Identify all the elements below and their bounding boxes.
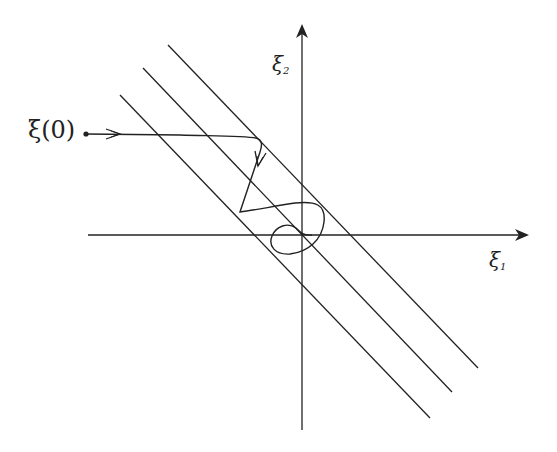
trajectory-curve <box>86 134 324 254</box>
initial-point-text: ξ(0) <box>28 116 75 144</box>
xi2-subscript: 2 <box>283 65 289 76</box>
xi2-axis-label: ξ2 <box>272 54 289 76</box>
xi1-subscript: 1 <box>500 261 506 272</box>
initial-point-label: ξ(0) <box>28 118 75 142</box>
xi1-symbol: ξ <box>489 248 500 272</box>
diagonal-line-lower <box>120 95 430 418</box>
diagonal-line-upper <box>168 45 478 368</box>
phase-plane-diagram: ξ(0) ξ2 ξ1 <box>0 0 557 452</box>
xi2-symbol: ξ <box>272 52 283 76</box>
xi1-axis-label: ξ1 <box>489 250 506 272</box>
